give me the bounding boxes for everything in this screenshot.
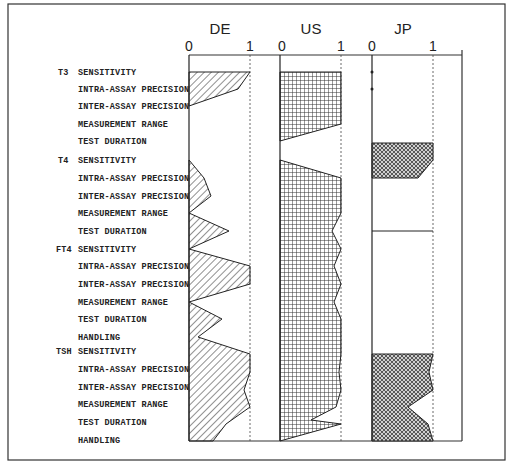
series-de xyxy=(189,55,250,441)
row-label: TEST DURATION xyxy=(78,315,147,325)
tick-us-0: 0 xyxy=(278,38,286,54)
tick-de-0: 0 xyxy=(185,38,193,54)
row-label: SENSITIVITY xyxy=(78,156,137,166)
row-label: INTRA-ASSAY PRECISION xyxy=(78,365,189,375)
row-label: INTRA-ASSAY PRECISION xyxy=(78,85,189,95)
row-label: INTER-ASSAY PRECISION xyxy=(78,383,189,393)
comparison-chart: DE US JP 0 1 0 1 0 1 T3 SENSITIVITY INTR… xyxy=(0,0,511,465)
tick-de-1: 1 xyxy=(246,38,254,54)
row-labels: T3 SENSITIVITY INTRA-ASSAY PRECISION INT… xyxy=(56,68,189,446)
row-label: INTER-ASSAY PRECISION xyxy=(78,192,189,202)
tick-jp-0: 0 xyxy=(368,38,376,54)
series-us xyxy=(280,55,341,441)
row-label: MEASUREMENT RANGE xyxy=(78,298,168,308)
panel-title-de: DE xyxy=(210,20,231,37)
row-label: TEST DURATION xyxy=(78,418,147,428)
panel-title-us: US xyxy=(301,20,322,37)
row-label: HANDLING xyxy=(78,436,120,446)
panel-title-jp: JP xyxy=(394,20,412,37)
tick-us-1: 1 xyxy=(337,38,345,54)
row-label: MEASUREMENT RANGE xyxy=(78,400,168,410)
group-label-t3: T3 xyxy=(58,68,69,78)
row-label: INTRA-ASSAY PRECISION xyxy=(78,174,189,184)
row-label: SENSITIVITY xyxy=(78,68,137,78)
group-label-t4: T4 xyxy=(58,156,69,166)
row-label: MEASUREMENT RANGE xyxy=(78,209,168,219)
row-label: INTRA-ASSAY PRECISION xyxy=(78,262,189,272)
group-label-tsh: TSH xyxy=(56,347,72,357)
row-label: INTER-ASSAY PRECISION xyxy=(78,280,189,290)
row-label: MEASUREMENT RANGE xyxy=(78,120,168,130)
row-label: SENSITIVITY xyxy=(78,347,137,357)
row-label: TEST DURATION xyxy=(78,137,147,147)
row-label: INTER-ASSAY PRECISION xyxy=(78,102,189,112)
row-label: SENSITIVITY xyxy=(78,245,137,255)
tick-jp-1: 1 xyxy=(429,38,437,54)
series-jp xyxy=(371,55,434,441)
row-label: TEST DURATION xyxy=(78,227,147,237)
row-label: HANDLING xyxy=(78,333,120,343)
group-label-ft4: FT4 xyxy=(56,245,72,255)
